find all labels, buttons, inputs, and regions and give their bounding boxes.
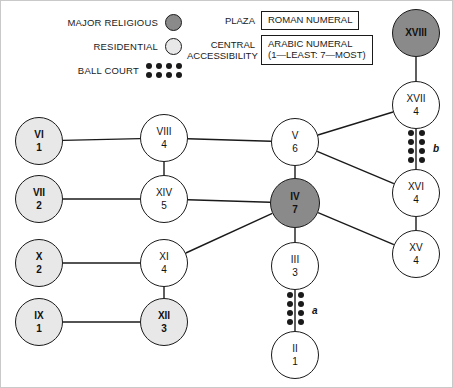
plaza-accessibility-value: 2	[36, 265, 42, 275]
legend-label-major-religious: MAJOR RELIGIOUS	[67, 17, 158, 28]
legend-numeral-keys: PLAZA ROMAN NUMERAL CENTRAL ACCESSIBILIT…	[187, 11, 367, 70]
legend-row-residential: RESIDENTIAL	[7, 35, 182, 57]
plaza-roman-numeral: XVIII	[405, 28, 427, 38]
plaza-access-diagram: MAJOR RELIGIOUS RESIDENTIAL BALL COURT P…	[0, 0, 453, 388]
legend-row-major-religious: MAJOR RELIGIOUS	[7, 11, 182, 33]
legend-key-accessibility-value-line1: ARABIC NUMERAL	[268, 38, 352, 49]
plaza-roman-numeral: XII	[158, 311, 170, 321]
plaza-node-vii[interactable]: VII2	[15, 175, 63, 223]
plaza-node-xi[interactable]: XI4	[140, 239, 188, 287]
plaza-node-iv[interactable]: IV7	[270, 178, 320, 228]
edge-v-xvii	[318, 112, 393, 135]
plaza-accessibility-value: 2	[36, 201, 42, 211]
plaza-node-xvii[interactable]: XVII4	[392, 81, 440, 129]
plaza-accessibility-value: 3	[161, 324, 167, 334]
legend-key-plaza-value-line1: ROMAN NUMERAL	[268, 14, 352, 25]
plaza-accessibility-value: 1	[36, 324, 42, 334]
plaza-accessibility-value: 4	[161, 265, 167, 275]
legend-key-accessibility-label: CENTRAL ACCESSIBILITY	[187, 35, 255, 61]
legend-label-residential: RESIDENTIAL	[94, 41, 159, 52]
plaza-node-xvi[interactable]: XVI4	[392, 169, 440, 217]
plaza-roman-numeral: IV	[290, 192, 299, 202]
plaza-node-v[interactable]: V6	[271, 118, 319, 166]
plaza-accessibility-value: 1	[292, 357, 298, 367]
plaza-roman-numeral: VI	[34, 130, 43, 140]
major-religious-swatch-icon	[165, 14, 182, 31]
plaza-roman-numeral: V	[292, 131, 299, 141]
legend-key-plaza-value: ROMAN NUMERAL	[261, 11, 359, 30]
legend-key-accessibility-value-line2: (1—LEAST: 7—MOST)	[268, 49, 366, 60]
plaza-roman-numeral: III	[291, 255, 299, 265]
edge-iv-xi	[186, 213, 272, 253]
residential-swatch-icon	[165, 38, 182, 55]
plaza-roman-numeral: VIII	[156, 127, 171, 137]
legend-key-accessibility-value: ARABIC NUMERAL (1—LEAST: 7—MOST)	[261, 35, 373, 65]
plaza-accessibility-value: 4	[413, 256, 419, 266]
legend-key-plaza: PLAZA ROMAN NUMERAL	[187, 11, 367, 30]
plaza-accessibility-value: 1	[36, 143, 42, 153]
plaza-roman-numeral: VII	[33, 188, 45, 198]
plaza-node-xii[interactable]: XII3	[140, 298, 188, 346]
plaza-node-ii[interactable]: II1	[271, 331, 319, 379]
legend-key-accessibility-line1: CENTRAL	[211, 39, 255, 50]
plaza-node-ix[interactable]: IX1	[15, 298, 63, 346]
plaza-accessibility-value: 7	[292, 205, 298, 215]
plaza-roman-numeral: XIV	[156, 188, 172, 198]
legend-label-ball-court: BALL COURT	[78, 65, 139, 76]
plaza-node-iii[interactable]: III3	[271, 242, 319, 290]
plaza-roman-numeral: XVII	[407, 94, 426, 104]
ball-court-swatch-icon	[146, 63, 182, 78]
plaza-roman-numeral: X	[36, 252, 43, 262]
plaza-node-xiv[interactable]: XIV5	[140, 175, 188, 223]
legend-row-ball-court: BALL COURT	[7, 59, 182, 81]
plaza-node-xviii[interactable]: XVIII	[392, 9, 440, 57]
ball-court-b	[408, 130, 425, 163]
plaza-node-xv[interactable]: XV4	[392, 230, 440, 278]
edge-viii-vi	[63, 139, 140, 141]
edge-v-viii	[188, 139, 271, 142]
edge-iv-xiv	[188, 200, 270, 203]
plaza-accessibility-value: 4	[413, 107, 419, 117]
plaza-accessibility-value: 6	[292, 144, 298, 154]
legend-key-plaza-label: PLAZA	[187, 11, 255, 26]
plaza-node-x[interactable]: X2	[15, 239, 63, 287]
edge-v-xvi	[317, 151, 394, 183]
plaza-roman-numeral: XVI	[408, 182, 424, 192]
plaza-roman-numeral: IX	[34, 311, 43, 321]
plaza-accessibility-value: 4	[161, 140, 167, 150]
ball-court-label-a: a	[312, 305, 318, 316]
plaza-node-viii[interactable]: VIII4	[140, 114, 188, 162]
plaza-roman-numeral: II	[292, 344, 298, 354]
ball-court-label-b: b	[433, 143, 439, 154]
plaza-accessibility-value: 5	[161, 201, 167, 211]
legend-key-accessibility-line2: ACCESSIBILITY	[187, 50, 255, 61]
legend-key-central-accessibility: CENTRAL ACCESSIBILITY ARABIC NUMERAL (1—…	[187, 35, 367, 65]
ball-court-a	[287, 292, 304, 325]
plaza-roman-numeral: XI	[159, 252, 168, 262]
plaza-accessibility-value: 4	[413, 195, 419, 205]
plaza-roman-numeral: XV	[409, 243, 422, 253]
legend-symbols: MAJOR RELIGIOUS RESIDENTIAL BALL COURT	[7, 11, 182, 83]
edge-iv-xv	[318, 213, 394, 245]
plaza-node-vi[interactable]: VI1	[15, 117, 63, 165]
plaza-accessibility-value: 3	[292, 268, 298, 278]
legend-key-plaza-line1: PLAZA	[225, 15, 255, 26]
